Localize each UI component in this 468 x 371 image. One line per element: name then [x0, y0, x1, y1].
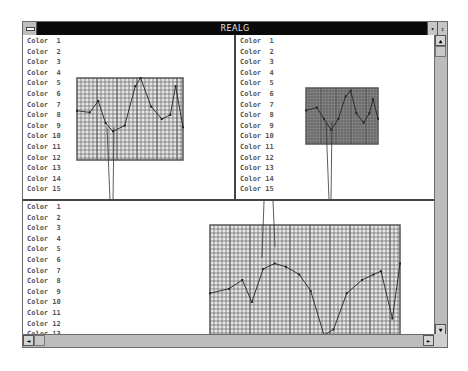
color-list-item[interactable]: Color 6	[240, 89, 274, 100]
size-grip[interactable]	[434, 334, 447, 347]
minimize-button[interactable]: ▾	[427, 22, 437, 35]
color-list-item[interactable]: Color 3	[27, 57, 61, 68]
maximize-button[interactable]: ⇕	[437, 22, 447, 35]
color-list-item[interactable]: Color 14	[240, 174, 274, 185]
color-list-item[interactable]: Color 11	[27, 308, 61, 319]
color-list: Color 1Color 2Color 3Color 4Color 5Color…	[27, 36, 61, 195]
color-list-item[interactable]: Color 11	[27, 142, 61, 153]
color-list: Color 1Color 2Color 3Color 4Color 5Color…	[240, 36, 274, 195]
color-list-item[interactable]: Color 10	[240, 131, 274, 142]
color-list-item[interactable]: Color 4	[27, 234, 61, 245]
scroll-left-button[interactable]: ◄	[23, 335, 34, 346]
color-list-item[interactable]: Color 9	[240, 121, 274, 132]
color-list-item[interactable]: Color 10	[27, 297, 61, 308]
color-list-item[interactable]: Color 5	[27, 78, 61, 89]
color-list-item[interactable]: Color 14	[27, 174, 61, 185]
title-bar[interactable]: REALG ▾ ⇕	[23, 22, 447, 35]
color-list-item[interactable]: Color 4	[27, 68, 61, 79]
realg-window: REALG ▾ ⇕ Color 1Color 2Color 3Color 4Co…	[22, 21, 448, 348]
horizontal-scroll-thumb[interactable]	[34, 335, 45, 346]
color-list-item[interactable]: Color 3	[240, 57, 274, 68]
color-list-item[interactable]: Color 15	[240, 184, 274, 195]
scroll-up-button[interactable]: ▲	[435, 35, 446, 46]
color-list-item[interactable]: Color 2	[240, 47, 274, 58]
color-list-item[interactable]: Color 7	[27, 100, 61, 111]
waveform-chart	[77, 78, 183, 199]
color-list-item[interactable]: Color 1	[240, 36, 274, 47]
pane-top-right[interactable]: Color 1Color 2Color 3Color 4Color 5Color…	[236, 35, 434, 199]
color-list: Color 1Color 2Color 3Color 4Color 5Color…	[27, 202, 61, 335]
color-list-item[interactable]: Color 2	[27, 213, 61, 224]
color-list-item[interactable]: Color 2	[27, 47, 61, 58]
connector-lines	[258, 201, 318, 261]
grid-plot	[306, 88, 378, 199]
color-list-item[interactable]: Color 13	[27, 163, 61, 174]
color-list-item[interactable]: Color 8	[27, 276, 61, 287]
horizontal-scrollbar[interactable]: ◄ ►	[23, 334, 434, 347]
color-list-item[interactable]: Color 10	[27, 131, 61, 142]
window-title: REALG	[23, 22, 447, 35]
color-list-item[interactable]: Color 12	[27, 153, 61, 164]
color-list-item[interactable]: Color 4	[240, 68, 274, 79]
color-list-item[interactable]: Color 7	[27, 266, 61, 277]
pane-top-left[interactable]: Color 1Color 2Color 3Color 4Color 5Color…	[23, 35, 236, 199]
color-list-item[interactable]: Color 8	[240, 110, 274, 121]
color-list-item[interactable]: Color 11	[240, 142, 274, 153]
color-list-item[interactable]: Color 6	[27, 89, 61, 100]
color-list-item[interactable]: Color 12	[240, 153, 274, 164]
vertical-scroll-thumb[interactable]	[435, 46, 446, 57]
color-list-item[interactable]: Color 3	[27, 223, 61, 234]
color-list-item[interactable]: Color 9	[27, 287, 61, 298]
color-list-item[interactable]: Color 1	[27, 36, 61, 47]
color-list-item[interactable]: Color 8	[27, 110, 61, 121]
pane-bottom[interactable]: Color 1Color 2Color 3Color 4Color 5Color…	[23, 201, 434, 335]
color-list-item[interactable]: Color 5	[240, 78, 274, 89]
color-list-item[interactable]: Color 9	[27, 121, 61, 132]
color-list-item[interactable]: Color 5	[27, 244, 61, 255]
grid-plot	[77, 78, 183, 199]
color-list-item[interactable]: Color 12	[27, 319, 61, 330]
waveform-chart	[306, 88, 378, 199]
scroll-right-button[interactable]: ►	[423, 335, 434, 346]
vertical-scrollbar[interactable]: ▲ ▼	[434, 35, 447, 335]
color-list-item[interactable]: Color 6	[27, 255, 61, 266]
color-list-item[interactable]: Color 13	[240, 163, 274, 174]
client-area: Color 1Color 2Color 3Color 4Color 5Color…	[23, 35, 434, 335]
color-list-item[interactable]: Color 7	[240, 100, 274, 111]
color-list-item[interactable]: Color 1	[27, 202, 61, 213]
color-list-item[interactable]: Color 15	[27, 184, 61, 195]
